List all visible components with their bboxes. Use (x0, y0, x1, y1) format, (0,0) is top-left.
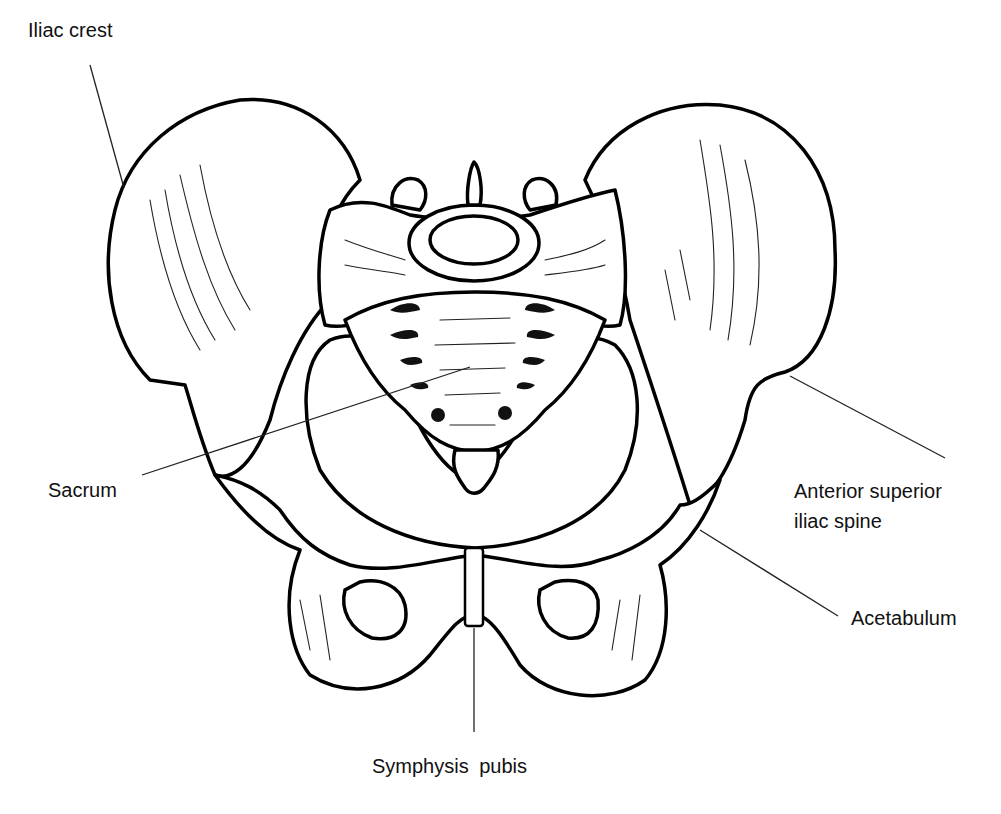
left-articular-process (392, 179, 426, 210)
pelvis-illustration (0, 0, 1001, 814)
label-asis-line1: Anterior superior (794, 476, 942, 506)
label-symphysis-pubis: Symphysis pubis (372, 754, 527, 779)
leader-asis (790, 376, 945, 458)
label-iliac-crest: Iliac crest (28, 18, 112, 43)
label-acetabulum: Acetabulum (851, 606, 957, 631)
spinous-process (467, 162, 481, 205)
label-asis-line2: iliac spine (794, 506, 942, 536)
leader-iliac-crest (90, 65, 124, 188)
pelvis-diagram: Iliac crest Sacrum Anterior superior ili… (0, 0, 1001, 814)
vertebral-body-surface (430, 216, 518, 264)
pubic-symphysis (465, 548, 483, 626)
label-sacrum: Sacrum (48, 478, 117, 503)
label-anterior-superior-iliac-spine: Anterior superior iliac spine (794, 476, 942, 536)
leader-acetabulum (700, 530, 838, 616)
right-articular-process (524, 179, 556, 210)
